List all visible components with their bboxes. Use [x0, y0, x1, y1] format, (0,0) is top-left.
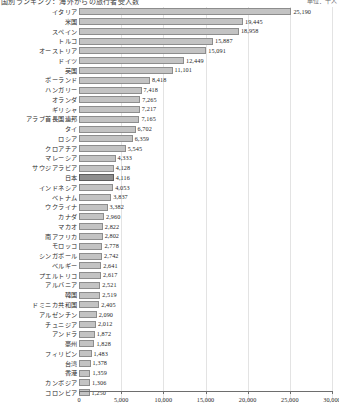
bar[interactable]: [79, 18, 243, 25]
x-axis-tick-label: 30,000: [323, 396, 339, 403]
category-label: アルゼンチン: [0, 310, 79, 320]
category-label: カンボジア: [0, 378, 79, 388]
x-axis: 05,00010,00015,00020,00025,00030,000: [79, 391, 332, 419]
bar[interactable]: [79, 96, 140, 103]
bar-row: オーストリア15,091: [0, 46, 339, 56]
bar[interactable]: [79, 67, 173, 74]
category-label: モロッコ: [0, 241, 79, 251]
bar-track: 3,837: [79, 194, 332, 201]
category-label: アンドラ: [0, 329, 79, 339]
bar[interactable]: [79, 213, 104, 220]
bar[interactable]: [79, 8, 291, 15]
bar-row: オランダ7,265: [0, 95, 339, 105]
bar-value-label: 25,190: [293, 8, 311, 16]
bar[interactable]: [79, 106, 140, 113]
bar[interactable]: [79, 340, 94, 347]
bar[interactable]: [79, 126, 136, 133]
bar[interactable]: [79, 253, 102, 260]
bar[interactable]: [79, 165, 114, 172]
category-label: ウクライナ: [0, 202, 79, 212]
category-label: 米国: [0, 17, 79, 27]
bar[interactable]: [79, 38, 213, 45]
category-label: ドミニカ共和国: [0, 300, 79, 310]
x-axis-tick-label: 10,000: [155, 396, 173, 403]
bar[interactable]: [79, 135, 133, 142]
bar-value-label: 11,101: [175, 66, 192, 74]
bar[interactable]: [79, 47, 206, 54]
bar[interactable]: [79, 194, 111, 201]
bar-row: ロシア6,359: [0, 134, 339, 144]
bar[interactable]: [79, 233, 103, 240]
x-axis-tick: [79, 391, 80, 394]
bar[interactable]: [79, 28, 239, 35]
bar-track: 2,090: [79, 311, 332, 318]
bar[interactable]: [79, 262, 101, 269]
bar-value-label: 7,165: [141, 115, 155, 123]
bar-row: アルバニア2,521: [0, 280, 339, 290]
bar[interactable]: [79, 321, 96, 328]
bar[interactable]: [79, 145, 126, 152]
bar[interactable]: [79, 292, 100, 299]
category-label: アルバニア: [0, 280, 79, 290]
bar[interactable]: [79, 116, 139, 123]
bar[interactable]: [79, 379, 90, 386]
bar[interactable]: [79, 87, 142, 94]
bar[interactable]: [79, 204, 108, 211]
bar-value-label: 2,405: [101, 301, 115, 309]
bar-value-label: 7,217: [142, 105, 156, 113]
bar[interactable]: [79, 223, 103, 230]
x-axis-tick: [332, 391, 333, 394]
bar-value-label: 1,828: [96, 340, 110, 348]
bar-track: 2,519: [79, 292, 332, 299]
bar-value-label: 4,116: [116, 174, 130, 182]
bar-track: 15,091: [79, 47, 332, 54]
bar[interactable]: [79, 311, 97, 318]
bar[interactable]: [79, 282, 100, 289]
bar-highlighted[interactable]: [79, 174, 114, 181]
category-label: クロアチア: [0, 144, 79, 154]
category-label: フィリピン: [0, 349, 79, 359]
units-note: 単位：千人: [307, 0, 337, 5]
bar-track: 2,778: [79, 243, 332, 250]
bar-row: 韓国2,519: [0, 290, 339, 300]
bar-track: 1,306: [79, 379, 332, 386]
bar[interactable]: [79, 301, 99, 308]
bar-row: 台湾1,378: [0, 359, 339, 369]
bar-value-label: 6,702: [138, 125, 152, 133]
x-axis-tick-label: 20,000: [239, 396, 257, 403]
plot-area: イタリア25,190米国19,445スペイン18,958トルコ15,887オース…: [0, 7, 339, 402]
bar-row: ギリシャ7,217: [0, 105, 339, 115]
bar-value-label: 1,378: [93, 359, 107, 367]
category-label: ポーランド: [0, 75, 79, 85]
bar[interactable]: [79, 331, 95, 338]
bar-value-label: 2,521: [102, 281, 116, 289]
x-axis-tick: [163, 391, 164, 394]
bar[interactable]: [79, 184, 113, 191]
bar-row: カナダ2,960: [0, 212, 339, 222]
bar-track: 2,641: [79, 262, 332, 269]
x-axis-tick-label: 5,000: [114, 396, 128, 403]
bar[interactable]: [79, 57, 184, 64]
bar[interactable]: [79, 350, 92, 357]
bar[interactable]: [79, 243, 102, 250]
bar-track: 7,265: [79, 96, 332, 103]
category-label: ドイツ: [0, 56, 79, 66]
bar-track: 1,872: [79, 331, 332, 338]
bar[interactable]: [79, 360, 91, 367]
bar[interactable]: [79, 272, 101, 279]
bar[interactable]: [79, 77, 150, 84]
bar-value-label: 5,545: [128, 145, 142, 153]
bar-track: 2,822: [79, 223, 332, 230]
bar-track: 2,012: [79, 321, 332, 328]
bar[interactable]: [79, 155, 116, 162]
bar-value-label: 2,519: [102, 291, 116, 299]
bar-row: サウジアラビア4,128: [0, 163, 339, 173]
bar-chart: 国別ランキング：海外からの旅行者受入数 単位：千人 イタリア25,190米国19…: [0, 0, 339, 419]
bar-value-label: 1,359: [92, 369, 106, 377]
bar-row: アルゼンチン2,090: [0, 310, 339, 320]
category-label: カナダ: [0, 212, 79, 222]
category-label: ベルギー: [0, 261, 79, 271]
bar[interactable]: [79, 370, 90, 377]
bar-value-label: 8,418: [152, 76, 166, 84]
bar-row: タイ6,702: [0, 124, 339, 134]
